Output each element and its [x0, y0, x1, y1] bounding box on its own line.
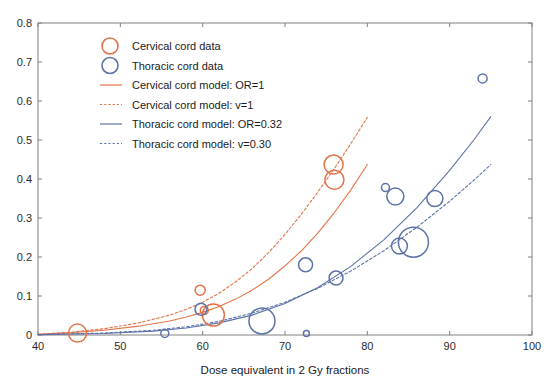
legend-label: Thoracic cord model: v=0.30 [132, 138, 271, 150]
model-curve [38, 165, 367, 335]
data-bubble [324, 155, 343, 174]
y-tick-label: 0.7 [17, 56, 32, 68]
model-curve [38, 117, 367, 334]
chart-root: 40506070809010000.10.20.30.40.50.60.70.8… [0, 0, 555, 385]
y-tick-label: 0.4 [17, 173, 32, 185]
x-tick-label: 80 [361, 340, 373, 352]
legend-marker-circle [102, 58, 118, 74]
legend-label: Thoracic cord model: OR=0.32 [132, 118, 282, 130]
legend: Cervical cord dataThoracic cord dataCerv… [100, 38, 282, 150]
y-tick-label: 0 [26, 329, 32, 341]
data-bubble [387, 188, 404, 205]
axes: 40506070809010000.10.20.30.40.50.60.70.8 [17, 17, 541, 352]
data-bubble [329, 271, 343, 285]
data-bubble [161, 329, 169, 337]
data-bubble [202, 304, 224, 326]
x-tick-label: 60 [197, 340, 209, 352]
legend-label: Cervical cord data [132, 40, 222, 52]
legend-label: Cervical cord model: OR=1 [132, 79, 264, 91]
legend-marker-circle [102, 38, 118, 54]
y-tick-label: 0.1 [17, 290, 32, 302]
legend-label: Cervical cord model: v=1 [132, 99, 253, 111]
data-bubble [299, 258, 313, 272]
y-tick-label: 0.6 [17, 95, 32, 107]
data-bubble [325, 170, 344, 189]
data-bubble [398, 227, 428, 257]
y-tick-label: 0.8 [17, 17, 32, 29]
x-tick-label: 70 [279, 340, 291, 352]
legend-label: Thoracic cord data [132, 60, 224, 72]
x-axis-title: Dose equivalent in 2 Gy fractions [201, 364, 370, 376]
data-bubble [195, 285, 205, 295]
y-tick-label: 0.3 [17, 212, 32, 224]
plot-frame [38, 23, 532, 335]
data-bubble [427, 191, 443, 207]
data-bubble [303, 330, 309, 336]
x-tick-label: 100 [523, 340, 541, 352]
x-tick-label: 50 [114, 340, 126, 352]
x-tick-label: 90 [444, 340, 456, 352]
data-points [69, 74, 488, 342]
axis-labels: Dose equivalent in 2 Gy fractions [201, 364, 370, 376]
scatter-plot: 40506070809010000.10.20.30.40.50.60.70.8… [0, 0, 555, 385]
y-tick-label: 0.5 [17, 134, 32, 146]
data-bubble [478, 74, 487, 83]
x-tick-label: 40 [32, 340, 44, 352]
data-bubble [381, 184, 389, 192]
model-curve [38, 165, 491, 335]
y-tick-label: 0.2 [17, 251, 32, 263]
